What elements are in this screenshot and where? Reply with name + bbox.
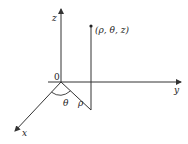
point-label: (ρ, θ, z): [95, 25, 129, 35]
z-axis-label: z: [51, 13, 57, 23]
x-axis-label: x: [22, 128, 27, 138]
theta-label: θ: [63, 98, 69, 108]
cylindrical-coordinate-diagram: z y x 0 (ρ, θ, z) θ ρ: [0, 0, 188, 144]
point-dot: [89, 24, 92, 27]
theta-arc: [52, 91, 71, 95]
rho-label: ρ: [77, 98, 84, 108]
y-axis-label: y: [173, 85, 180, 95]
origin-label: 0: [54, 72, 60, 82]
x-axis: [15, 82, 61, 131]
